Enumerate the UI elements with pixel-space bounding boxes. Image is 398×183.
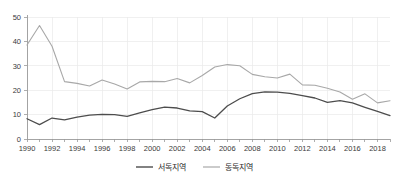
- y-tick-label: 10: [13, 110, 21, 119]
- x-tick-label: 2018: [369, 144, 386, 153]
- series-line-east: [27, 26, 390, 103]
- x-tick-label: 1992: [44, 144, 61, 153]
- chart-canvas: 01020304050 1990199219941996199820002002…: [0, 0, 398, 183]
- x-axis-tick-labels: 1990199219941996199820002002200420062008…: [19, 144, 386, 153]
- x-tick-label: 1998: [119, 144, 136, 153]
- legend-label-east: 동독지역: [225, 162, 253, 172]
- y-tick-label: 0: [17, 135, 21, 144]
- y-axis-tick-labels: 01020304050: [13, 13, 21, 144]
- x-tick-label: 2004: [194, 144, 211, 153]
- y-tick-label: 40: [13, 37, 21, 46]
- x-tick-label: 1996: [94, 144, 111, 153]
- series-line-west: [27, 92, 390, 125]
- axes: [27, 15, 390, 139]
- x-tick-label: 1990: [19, 144, 36, 153]
- x-tick-label: 2014: [319, 144, 336, 153]
- y-tick-label: 30: [13, 62, 21, 71]
- data-series: [27, 26, 390, 125]
- y-tick-label: 20: [13, 86, 21, 95]
- gridlines: [27, 17, 390, 139]
- y-tick-label: 50: [13, 13, 21, 22]
- x-tick-label: 2016: [344, 144, 361, 153]
- x-tick-label: 2012: [294, 144, 311, 153]
- chart-legend: 서독지역동독지역: [136, 162, 253, 172]
- legend-label-west: 서독지역: [158, 162, 186, 172]
- x-tick-label: 2000: [144, 144, 161, 153]
- x-tick-label: 2010: [269, 144, 286, 153]
- line-chart-container: 01020304050 1990199219941996199820002002…: [0, 0, 398, 183]
- tick-marks: [24, 17, 390, 142]
- x-tick-label: 1994: [69, 144, 86, 153]
- x-tick-label: 2008: [244, 144, 261, 153]
- x-tick-label: 2006: [219, 144, 236, 153]
- x-tick-label: 2002: [169, 144, 186, 153]
